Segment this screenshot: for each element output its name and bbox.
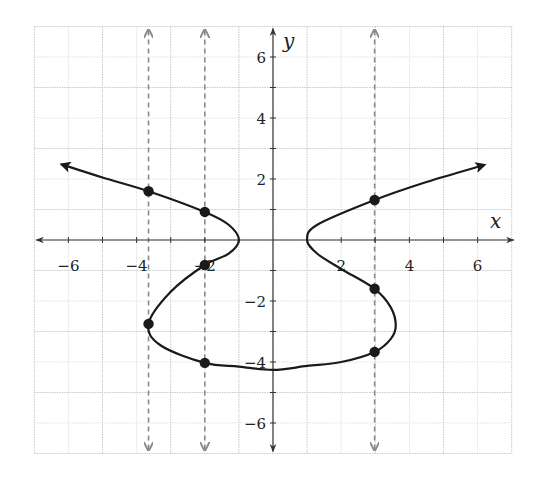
coordinate-plane: −6−4−2246−6−4−2246 x y: [0, 0, 542, 482]
x-axis-label: x: [490, 209, 501, 233]
x-tick-label: 4: [405, 257, 415, 275]
data-point: [369, 284, 379, 294]
x-tick-label: −6: [57, 257, 79, 275]
axes: [36, 29, 513, 452]
y-tick-label: −6: [244, 415, 266, 433]
data-point: [200, 260, 210, 270]
x-tick-label: 6: [473, 257, 483, 275]
data-point: [143, 319, 153, 329]
data-point: [200, 207, 210, 217]
y-tick-label: −2: [244, 293, 266, 311]
y-tick-label: 6: [256, 49, 266, 67]
data-point: [369, 195, 379, 205]
y-tick-label: 2: [256, 171, 266, 189]
x-tick-label: −4: [126, 257, 148, 275]
data-point: [143, 186, 153, 196]
y-tick-label: 4: [256, 110, 266, 128]
data-point: [369, 347, 379, 357]
data-point: [200, 358, 210, 368]
tick-labels: −6−4−2246−6−4−2246: [57, 49, 482, 433]
y-axis-label: y: [282, 29, 295, 53]
